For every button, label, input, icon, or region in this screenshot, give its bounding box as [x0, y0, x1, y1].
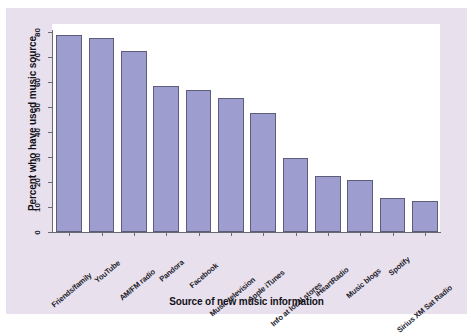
x-axis-tick-mark [296, 233, 297, 236]
x-axis-category-label: YouTube [92, 258, 121, 284]
x-axis-tick-mark [263, 233, 264, 236]
x-axis-category-label: Pandora [158, 258, 186, 284]
x-axis-tick-mark [231, 233, 232, 236]
x-axis-tick-mark [425, 233, 426, 236]
x-axis-tick-mark [360, 233, 361, 236]
x-axis-tick-mark [166, 233, 167, 236]
x-axis-tick-mark [328, 233, 329, 236]
x-axis-tick-mark [199, 233, 200, 236]
x-axis-tick-mark [134, 233, 135, 236]
x-axis-tick-mark [393, 233, 394, 236]
x-axis-tick-mark [69, 233, 70, 236]
x-axis-title: Source of new music information [52, 296, 441, 307]
x-axis-category-label: Sirius XM Sat Radio [395, 283, 454, 334]
x-axis-category-label: Spotify [386, 255, 411, 278]
x-axis-category-label: Facebook [187, 261, 219, 290]
x-axis-tick-mark [102, 233, 103, 236]
